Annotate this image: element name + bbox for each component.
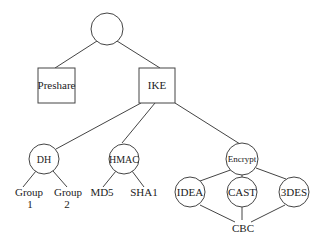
edge-idea-cbc: [200, 205, 235, 222]
ike-label: IKE: [148, 79, 167, 91]
dh-label: DH: [37, 154, 51, 165]
idea-label: IDEA: [177, 186, 203, 198]
sha1-label: SHA1: [130, 186, 158, 198]
edge-ike-encrypt: [175, 103, 240, 144]
edge-dh-group2: [53, 171, 67, 187]
group1-label-line1: Group: [15, 186, 44, 198]
group2-label-line2: 2: [64, 198, 70, 210]
hmac-label: HMAC: [109, 154, 139, 165]
preshare-label: Preshare: [38, 79, 76, 91]
group2-label-line1: Group: [54, 186, 83, 198]
encrypt-label: Encrypt: [228, 154, 257, 164]
edge-hmac-md5: [103, 171, 116, 187]
edge-dh-group1: [23, 171, 36, 187]
cbc-label: CBC: [232, 222, 254, 234]
3des-label: 3DES: [281, 186, 307, 198]
tree-diagram: Preshare IKE DH HMAC Encrypt Group 1 Gro…: [0, 0, 328, 245]
edge-root-ike: [117, 41, 160, 68]
edge-encrypt-3des: [256, 168, 286, 179]
edge-root-preshare: [55, 41, 97, 68]
edge-3des-cbc: [251, 205, 285, 222]
edge-ike-dh: [56, 103, 141, 149]
group1-label-line2: 1: [27, 198, 33, 210]
root-node: [91, 13, 123, 45]
edge-hmac-sha1: [132, 171, 144, 187]
md5-label: MD5: [90, 186, 114, 198]
edge-ike-hmac: [122, 103, 155, 143]
cast-label: CAST: [228, 186, 256, 198]
